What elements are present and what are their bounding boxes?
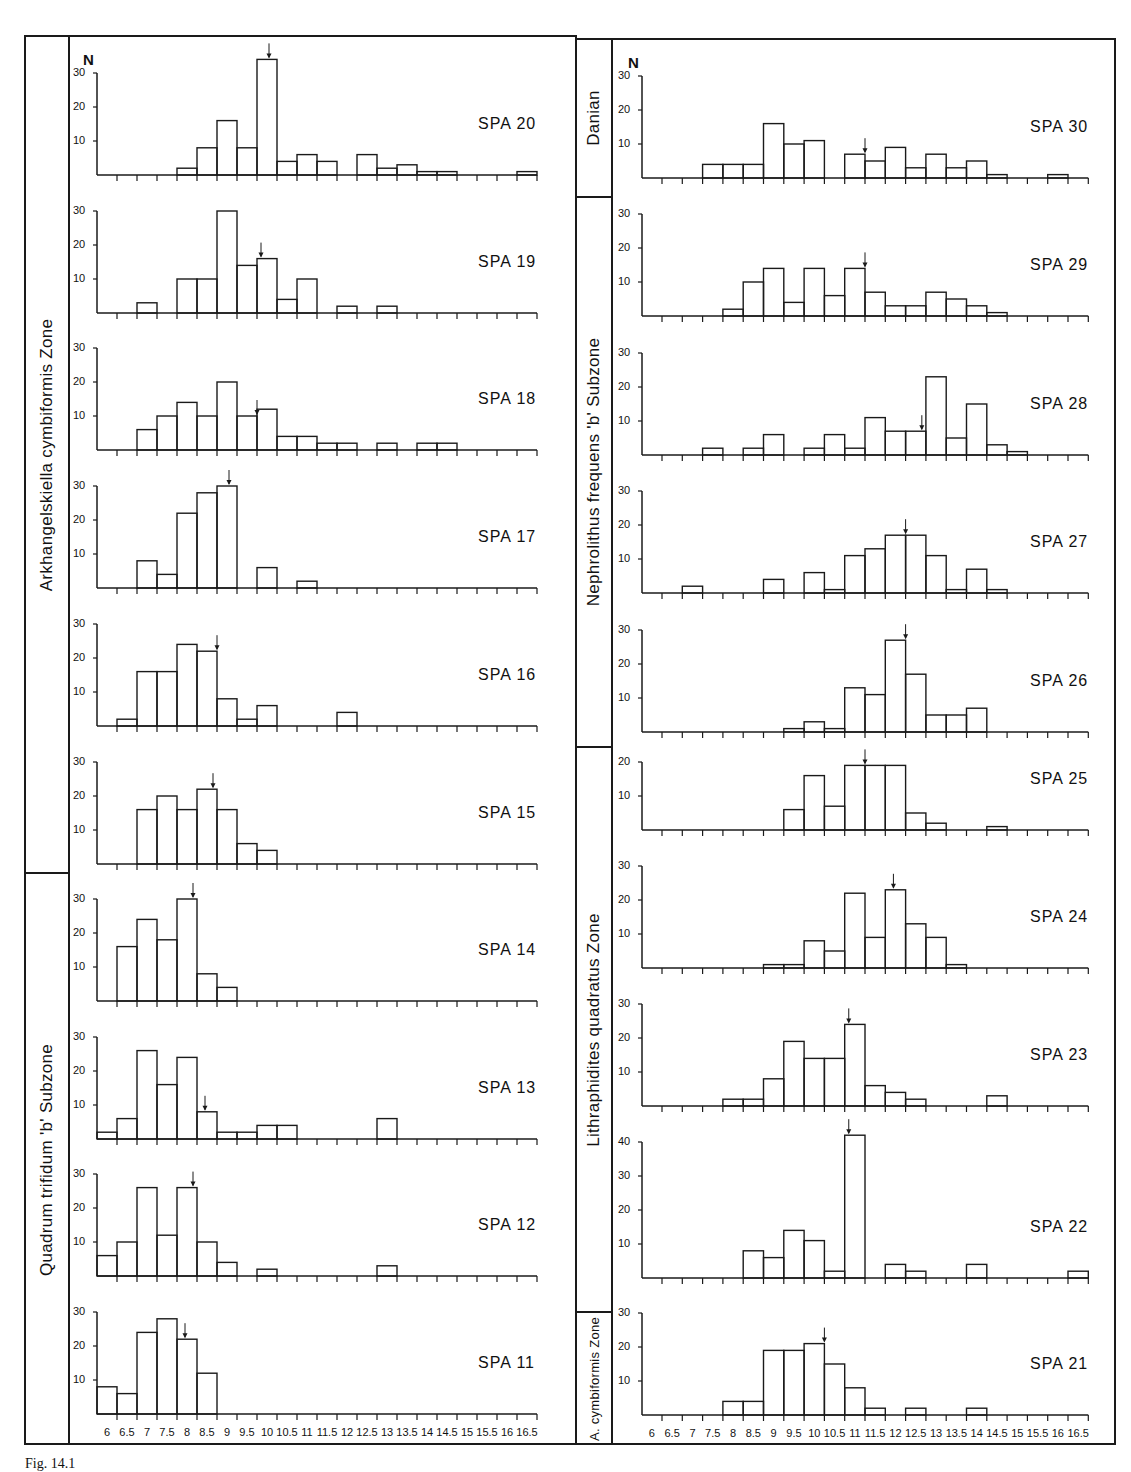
- histogram-bar: [865, 161, 885, 178]
- histogram-bar: [237, 1132, 257, 1139]
- x-tick-label: 6.5: [664, 1427, 679, 1439]
- histogram-bar: [177, 1339, 197, 1414]
- histogram-bar: [337, 712, 357, 726]
- histogram-bar: [784, 144, 804, 178]
- x-tick-label: 6: [104, 1426, 110, 1438]
- y-tick-label: 40: [618, 1135, 630, 1147]
- histogram-bar: [946, 299, 966, 316]
- histogram-bar: [784, 1350, 804, 1415]
- sample-label: SPA 11: [478, 1354, 535, 1372]
- histogram-bar: [784, 1041, 804, 1106]
- histogram-bar: [804, 722, 824, 732]
- y-tick-label: 10: [618, 275, 630, 287]
- y-tick-label: 30: [618, 997, 630, 1009]
- histogram-bar: [784, 1230, 804, 1278]
- zone-nephrolithus: Nephrolithus frequens 'b' Subzone: [577, 198, 611, 748]
- histogram-bar: [865, 549, 885, 593]
- sample-label: SPA 15: [478, 804, 536, 822]
- histogram-bar: [824, 729, 844, 732]
- y-tick-label: 10: [73, 685, 85, 697]
- histogram-bar: [237, 148, 257, 175]
- histogram-bar: [885, 765, 905, 830]
- histogram-bar: [885, 1092, 905, 1106]
- x-tick-label: 7.5: [159, 1426, 174, 1438]
- sample-label: SPA 22: [1030, 1218, 1088, 1236]
- sample-label: SPA 17: [478, 528, 536, 546]
- x-tick-label: 11: [849, 1427, 860, 1439]
- y-tick-label: 20: [73, 513, 85, 525]
- histogram-bar: [764, 435, 784, 455]
- histogram-bar: [906, 168, 926, 178]
- y-tick-label: 10: [73, 547, 85, 559]
- histogram-bar: [906, 924, 926, 968]
- y-tick-label: 10: [73, 409, 85, 421]
- histogram-bar: [906, 1271, 926, 1278]
- histogram-plot: [97, 1033, 541, 1147]
- histogram-bar: [97, 1256, 117, 1276]
- histogram-bar: [197, 279, 217, 313]
- histogram-spa-12: 102030SPA 12: [97, 1170, 541, 1284]
- histogram-bar: [177, 402, 197, 450]
- x-tick-label: 10.5: [276, 1426, 297, 1438]
- histogram-bar: [117, 1394, 137, 1414]
- histogram-bar: [926, 937, 946, 968]
- histogram-bar: [845, 765, 865, 830]
- histogram-plot: [642, 1138, 1092, 1286]
- histogram-bar: [297, 279, 317, 313]
- histogram-bar: [197, 789, 217, 864]
- histogram-plot: [642, 1309, 1092, 1423]
- histogram-bar: [237, 844, 257, 864]
- histogram-plot: [642, 210, 1092, 324]
- histogram-spa-25: 1020SPA 25: [642, 758, 1092, 838]
- histogram-bar: [865, 765, 885, 830]
- histogram-bar: [824, 1058, 844, 1106]
- histogram-spa-20: 102030NSPA 20: [97, 69, 541, 183]
- y-tick-label: 30: [73, 617, 85, 629]
- histogram-bar: [257, 568, 277, 588]
- histogram-spa-18: 102030SPA 18: [97, 344, 541, 458]
- histogram-bar: [117, 1242, 137, 1276]
- histogram-bar: [703, 448, 723, 455]
- histogram-bar: [804, 268, 824, 316]
- y-tick-label: 10: [618, 414, 630, 426]
- histogram-bar: [257, 1125, 277, 1139]
- mean-arrow-icon: [903, 634, 908, 639]
- histogram-bar: [197, 1112, 217, 1139]
- y-tick-label: 10: [73, 1373, 85, 1385]
- histogram-bar: [845, 1024, 865, 1106]
- histogram-bar: [906, 1408, 926, 1415]
- y-tick-label: 20: [618, 893, 630, 905]
- mean-arrow-icon: [891, 884, 896, 889]
- y-tick-label: 30: [73, 341, 85, 353]
- sample-label: SPA 23: [1030, 1046, 1088, 1064]
- histogram-bar: [784, 302, 804, 316]
- histogram-bar: [137, 672, 157, 726]
- y-tick-label: 10: [618, 137, 630, 149]
- histogram-bar: [217, 1262, 237, 1276]
- histogram-bar: [377, 306, 397, 313]
- histogram-spa-21: 102030SPA 2166.577.588.599.51010.51111.5…: [642, 1309, 1092, 1423]
- y-tick-label: 30: [618, 484, 630, 496]
- x-tick-label: 6.5: [119, 1426, 134, 1438]
- x-tick-label: 13: [930, 1427, 942, 1439]
- histogram-bar: [987, 590, 1007, 593]
- histogram-bar: [157, 1235, 177, 1276]
- x-tick-label: 14: [421, 1426, 433, 1438]
- y-tick-label: 10: [73, 1235, 85, 1247]
- histogram-bar: [257, 259, 277, 313]
- histogram-bar: [682, 586, 702, 593]
- histogram-bar: [824, 951, 844, 968]
- histogram-plot: [97, 69, 541, 183]
- x-tick-label: 8: [184, 1426, 190, 1438]
- sample-label: SPA 27: [1030, 533, 1088, 551]
- histogram-bar: [257, 409, 277, 450]
- y-tick-label: 30: [618, 207, 630, 219]
- histogram-bar: [257, 706, 277, 726]
- histogram-bar: [824, 590, 844, 593]
- histogram-bar: [157, 940, 177, 1001]
- mean-arrow-icon: [215, 645, 220, 650]
- histogram-bar: [217, 382, 237, 450]
- histogram-bar: [297, 581, 317, 588]
- sample-label: SPA 25: [1030, 770, 1088, 788]
- x-tick-label: 10: [261, 1426, 273, 1438]
